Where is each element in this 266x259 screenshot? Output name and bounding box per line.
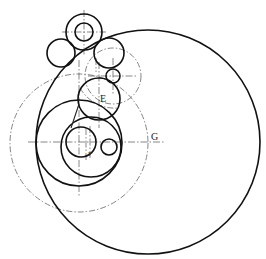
tangent-circles-diagram: E G F	[0, 0, 266, 259]
inner-circle	[61, 117, 121, 177]
right-of-gear-circle	[94, 38, 124, 68]
label-G: G	[151, 131, 158, 142]
right-small-circle	[101, 139, 117, 155]
label-F: F	[88, 150, 92, 158]
left-small-circle	[47, 39, 75, 67]
label-E: E	[100, 93, 106, 104]
tangent-line	[71, 104, 79, 128]
